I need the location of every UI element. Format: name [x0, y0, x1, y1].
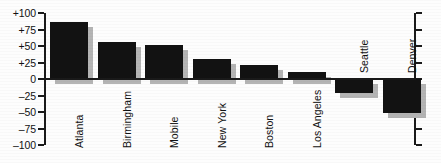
bar-seattle[interactable] — [335, 79, 373, 93]
y-axis-tick-label: +100 — [0, 8, 36, 18]
bar-new-york[interactable] — [193, 59, 231, 79]
zero-baseline — [44, 78, 416, 80]
y-axis-tick-label: +25 — [0, 58, 36, 68]
y-axis-tick-label: –50 — [0, 107, 36, 117]
bar-chart: +100+75+50+250–25–50–75–100 AtlantaBirmi… — [0, 0, 441, 163]
category-label-birmingham: Birmingham — [122, 91, 133, 148]
y-axis-tick-labels: +100+75+50+250–25–50–75–100 — [0, 0, 36, 163]
category-label-boston: Boston — [264, 115, 275, 148]
bar-atlanta[interactable] — [50, 22, 88, 79]
category-label-atlanta: Atlanta — [74, 115, 85, 148]
category-label-los-angeles: Los Angeles — [312, 90, 323, 148]
y-axis-tick-label: +75 — [0, 25, 36, 35]
y-axis-tick-label: –25 — [0, 91, 36, 101]
bar-boston[interactable] — [240, 65, 278, 79]
category-label-mobile: Mobile — [169, 116, 180, 148]
bar-birmingham[interactable] — [98, 42, 136, 79]
bar-denver[interactable] — [383, 79, 421, 113]
category-label-denver: Denver — [407, 39, 418, 73]
y-axis-tick-label: +50 — [0, 41, 36, 51]
y-axis-tick-label: –75 — [0, 124, 36, 134]
y-axis-tick-label: 0 — [0, 74, 36, 84]
bar-mobile[interactable] — [145, 45, 183, 79]
category-label-seattle: Seattle — [359, 40, 370, 73]
y-axis-tick-label: –100 — [0, 140, 36, 150]
category-label-new-york: New York — [217, 103, 228, 148]
